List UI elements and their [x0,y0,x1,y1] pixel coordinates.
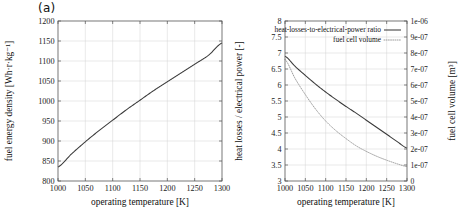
x-tick-label: 1100 [318,184,334,193]
x-tick-label: 1100 [105,184,121,193]
y-tick-label: 850 [42,157,54,166]
y-tick-label: 900 [42,137,54,146]
y2-tick-label: 3e-07 [411,129,428,138]
y2-tick-label: 1e-07 [411,161,428,170]
y-tick-label: 1100 [38,57,54,66]
plot-a-canvas: 1000105011001150120012501300800850900950… [0,0,234,218]
chart-panel-b: (b) 100010501100115012001250130033.544.5… [234,0,468,218]
x-tick-label: 1150 [132,184,148,193]
x-tick-label: 1250 [378,184,394,193]
y-tick-label: 3.5 [271,161,281,170]
y-tick-label: 1150 [38,37,54,46]
x-tick-label: 1200 [358,184,374,193]
y2-tick-label: 1e-06 [411,17,428,26]
y2-tick-label: 8e-07 [411,49,428,58]
y-axis-title: heat losses / electrical power [-] [234,41,244,160]
y-tick-label: 6.5 [271,65,281,74]
x-axis-title: operating temperature [K] [297,197,395,207]
x-tick-label: 1200 [159,184,175,193]
y2-axis-title: fuel cell volume [m³] [447,61,457,141]
y-tick-label: 800 [42,177,54,186]
plot-b-canvas: 100010501100115012001250130033.544.555.5… [234,0,468,218]
x-tick-label: 1050 [297,184,313,193]
legend-label-1: fuel cell volume [333,35,382,44]
y2-tick-label: 4e-07 [411,113,428,122]
y-tick-label: 7 [277,49,281,58]
y-axis-title: fuel energy density [Wh·r·kg⁻¹] [4,41,14,161]
y2-tick-label: 2e-07 [411,145,428,154]
x-tick-label: 1250 [186,184,202,193]
y2-tick-label: 0 [411,177,415,186]
y-tick-label: 6 [277,81,281,90]
x-axis-title: operating temperature [K] [91,197,189,207]
y2-tick-label: 7e-07 [411,65,428,74]
figure-root: (a) 100010501100115012001250130080085090… [0,0,468,218]
y2-tick-label: 5e-07 [411,97,428,106]
y-tick-label: 3 [277,177,281,186]
x-tick-label: 1050 [77,184,93,193]
y-tick-label: 950 [42,117,54,126]
y-tick-label: 1000 [38,97,54,106]
y-tick-label: 5 [277,113,281,122]
y2-tick-label: 6e-07 [411,81,428,90]
y-tick-label: 1050 [38,77,54,86]
y2-tick-label: 9e-07 [411,33,428,42]
y-tick-label: 5.5 [271,97,281,106]
x-tick-label: 1300 [214,184,230,193]
x-tick-label: 1150 [338,184,354,193]
y-tick-label: 4.5 [271,129,281,138]
y-tick-label: 1200 [38,17,54,26]
legend-label-0: heat-losses-to-electrical-power ratio [275,25,382,34]
y-tick-label: 4 [277,145,281,154]
chart-panel-a: (a) 100010501100115012001250130080085090… [0,0,234,218]
